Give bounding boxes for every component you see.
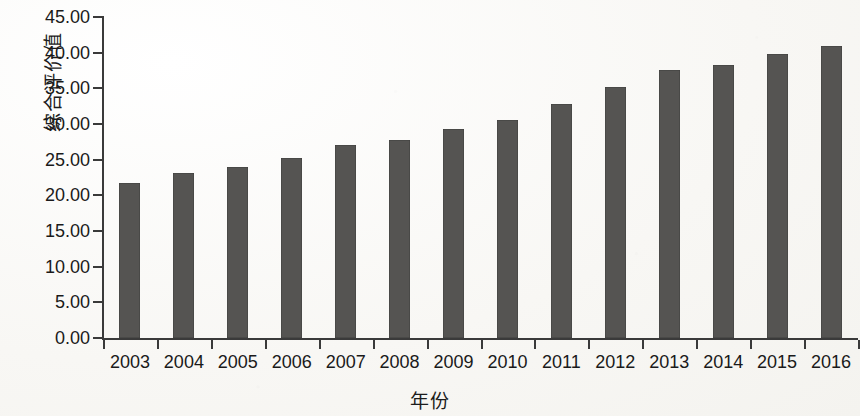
x-tick-label: 2010: [477, 352, 537, 373]
x-tick-label: 2011: [531, 352, 591, 373]
x-tick-label: 2006: [262, 352, 322, 373]
x-tick-label: 2009: [424, 352, 484, 373]
x-tick-label: 2003: [100, 352, 160, 373]
x-tick-label: 2012: [585, 352, 645, 373]
x-tick-label: 2013: [639, 352, 699, 373]
bar-chart: 综合评价值 0.005.0010.0015.0020.0025.0030.003…: [0, 0, 860, 416]
x-tick-label: 2008: [370, 352, 430, 373]
x-tick-label: 2004: [154, 352, 214, 373]
x-tick-label: 2015: [747, 352, 807, 373]
x-axis-tick-labels: 2003200420052006200720082009201020112012…: [0, 0, 860, 416]
x-axis-title: 年份: [0, 386, 860, 413]
x-tick-label: 2016: [801, 352, 860, 373]
x-tick-label: 2007: [316, 352, 376, 373]
x-tick-label: 2014: [693, 352, 753, 373]
x-tick-label: 2005: [208, 352, 268, 373]
